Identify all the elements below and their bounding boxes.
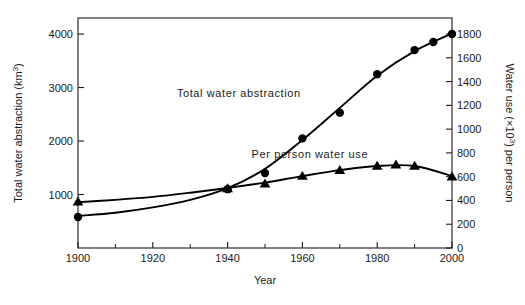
y-right-axis-tick-label: 1800 xyxy=(457,28,481,40)
x-axis-ticks xyxy=(78,242,452,248)
y-right-axis-tick-labels: 020040060080010001200140016001800 xyxy=(457,28,481,254)
y-right-axis-title: Water use (×103) per person xyxy=(504,64,517,203)
y-right-axis-tick-label: 600 xyxy=(457,171,475,183)
data-point-marker-circle xyxy=(336,108,344,116)
data-point-marker-triangle xyxy=(447,171,458,180)
y-right-axis-tick-label: 1000 xyxy=(457,123,481,135)
series-line-total-abstraction xyxy=(78,34,452,216)
data-point-marker-circle xyxy=(373,70,381,78)
y-left-axis-tick-label: 4000 xyxy=(49,28,73,40)
plot-frame xyxy=(78,18,452,248)
y-left-axis-ticks xyxy=(78,34,84,194)
svg-text:Total water abstraction (km3): Total water abstraction (km3) xyxy=(11,63,24,203)
data-point-marker-triangle xyxy=(73,196,84,205)
x-axis-tick-label: 1960 xyxy=(290,252,314,264)
y-right-axis-title-text: Water use (×10 xyxy=(504,64,516,139)
per-person-water-use-label: Per person water use xyxy=(252,148,369,160)
x-axis-tick-label: 1980 xyxy=(365,252,389,264)
water-abstraction-line-chart: 190019201940196019802000 100020003000400… xyxy=(0,0,525,305)
y-right-axis-tick-label: 1400 xyxy=(457,76,481,88)
y-right-axis-tick-label: 800 xyxy=(457,147,475,159)
data-point-marker-circle xyxy=(261,169,269,177)
data-point-marker-circle xyxy=(298,134,306,142)
y-left-axis-tick-label: 1000 xyxy=(49,189,73,201)
y-right-axis-tick-label: 0 xyxy=(457,242,463,254)
data-point-marker-circle xyxy=(410,46,418,54)
total-water-abstraction-label: Total water abstraction xyxy=(177,87,301,99)
y-right-axis-title-close: ) per person xyxy=(504,143,516,202)
y-right-axis-tick-label: 1200 xyxy=(457,99,481,111)
y-left-axis-tick-label: 2000 xyxy=(49,135,73,147)
x-axis-title: Year xyxy=(254,274,277,286)
chart-figure: 190019201940196019802000 100020003000400… xyxy=(0,0,525,305)
y-right-axis-tick-label: 1600 xyxy=(457,52,481,64)
series-curves xyxy=(78,34,452,216)
data-point-marker-circle xyxy=(448,30,456,38)
y-left-axis-title-text: Total water abstraction (km xyxy=(12,71,24,202)
y-right-axis-tick-label: 200 xyxy=(457,218,475,230)
x-axis-tick-label: 1900 xyxy=(66,252,90,264)
data-point-marker-triangle xyxy=(391,160,402,169)
y-left-axis-tick-labels: 1000200030004000 xyxy=(49,28,73,200)
data-point-marker-circle xyxy=(429,38,437,46)
y-right-axis-ticks xyxy=(446,34,452,248)
x-axis-tick-label: 1940 xyxy=(215,252,239,264)
x-axis-tick-labels: 190019201940196019802000 xyxy=(66,252,464,264)
y-right-axis-tick-label: 400 xyxy=(457,194,475,206)
y-left-axis-tick-label: 3000 xyxy=(49,82,73,94)
series-annotations: Total water abstractionPer person water … xyxy=(177,87,368,160)
y-left-axis-title-close: ) xyxy=(12,63,24,67)
series-markers xyxy=(73,30,458,221)
y-left-axis-title: Total water abstraction (km3) xyxy=(11,63,24,203)
x-axis-tick-label: 1920 xyxy=(141,252,165,264)
data-point-marker-circle xyxy=(74,213,82,221)
svg-text:Water use (×103) per person: Water use (×103) per person xyxy=(504,64,517,203)
